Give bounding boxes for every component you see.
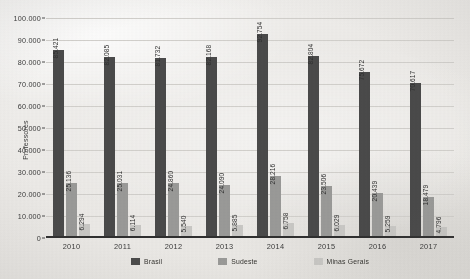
bar-value-label: 6.758 xyxy=(282,213,289,230)
y-axis-tick-label: 40.000 xyxy=(18,146,41,155)
bar-value-label: 75.672 xyxy=(358,59,365,80)
bar[interactable]: 23.506 xyxy=(321,186,332,238)
bar[interactable]: 82.085 xyxy=(104,57,115,238)
bar[interactable]: 75.672 xyxy=(359,72,370,238)
bar-slot: 24.090 xyxy=(219,18,230,238)
bar-group: 75.67220.4395.2592016 xyxy=(352,18,403,238)
bar-slot: 85.421 xyxy=(53,18,64,238)
bar-group: 82.80423.5066.0292015 xyxy=(301,18,352,238)
bar-value-label: 5.885 xyxy=(231,215,238,232)
bar-value-label: 24.860 xyxy=(167,171,174,192)
y-axis-tick-label: 30.000 xyxy=(18,168,41,177)
bar-value-label: 20.439 xyxy=(371,181,378,202)
bar-value-label: 25.031 xyxy=(116,171,123,192)
bar[interactable]: 24.860 xyxy=(168,183,179,238)
bar-slot: 6.758 xyxy=(283,18,294,238)
bar[interactable]: 70.617 xyxy=(410,83,421,238)
bar-slot: 24.860 xyxy=(168,18,179,238)
legend-item[interactable]: Brasil xyxy=(131,258,162,265)
bar[interactable]: 25.136 xyxy=(66,183,77,238)
legend-swatch-icon xyxy=(314,258,323,265)
bar-slot: 4.796 xyxy=(436,18,447,238)
legend-label: Sudeste xyxy=(231,258,257,265)
legend-swatch-icon xyxy=(131,258,140,265)
x-axis-tick-label: 2015 xyxy=(318,242,336,251)
bar-value-label: 4.796 xyxy=(435,217,442,234)
y-axis-tick-label: 50.000 xyxy=(18,124,41,133)
legend-swatch-icon xyxy=(218,258,227,265)
y-axis-tick-label: 0 xyxy=(37,234,41,243)
y-axis-tick-mark xyxy=(42,40,45,41)
bar-value-label: 25.136 xyxy=(65,170,72,191)
y-axis-tick-mark xyxy=(42,84,45,85)
bar-value-label: 92.754 xyxy=(256,22,263,43)
y-axis-tick-mark xyxy=(42,194,45,195)
y-axis-tick-mark xyxy=(42,238,45,239)
y-axis-tick-label: 80.000 xyxy=(18,58,41,67)
bar-slot: 6.029 xyxy=(334,18,345,238)
bar-slot: 5.885 xyxy=(232,18,243,238)
y-axis-tick-mark xyxy=(42,150,45,151)
legend-item[interactable]: Sudeste xyxy=(218,258,257,265)
bar[interactable]: 85.421 xyxy=(53,50,64,238)
y-axis-tick-mark xyxy=(42,216,45,217)
x-axis-tick-label: 2011 xyxy=(114,242,131,251)
bar-value-label: 85.421 xyxy=(52,38,59,59)
bar-group: 92.75428.2166.7582014 xyxy=(250,18,301,238)
bar-group: 70.61718.4794.7962017 xyxy=(403,18,454,238)
bar-slot: 82.804 xyxy=(308,18,319,238)
bar-slot: 6.114 xyxy=(130,18,141,238)
y-axis-tick-mark xyxy=(42,18,45,19)
bar-value-label: 5.540 xyxy=(180,215,187,232)
bar-value-label: 18.479 xyxy=(422,185,429,206)
bar-slot: 92.754 xyxy=(257,18,268,238)
legend-item[interactable]: Minas Gerais xyxy=(314,258,369,265)
x-axis-tick-label: 2012 xyxy=(165,242,183,251)
bar-groups: 85.42125.1366.294201082.08525.0316.11420… xyxy=(46,18,454,238)
bar-group: 82.16824.0905.8852013 xyxy=(199,18,250,238)
bar-slot: 25.136 xyxy=(66,18,77,238)
y-axis-tick-label: 100.000 xyxy=(14,14,41,23)
bar-group: 85.42125.1366.2942010 xyxy=(46,18,97,238)
legend-label: Brasil xyxy=(144,258,162,265)
bar[interactable]: 18.479 xyxy=(423,197,434,238)
x-axis-tick-label: 2016 xyxy=(369,242,387,251)
chart-legend: BrasilSudesteMinas Gerais xyxy=(46,258,454,265)
y-axis-tick-mark xyxy=(42,128,45,129)
bar-value-label: 81.732 xyxy=(154,46,161,67)
bar-value-label: 82.085 xyxy=(103,45,110,66)
bar-slot: 6.294 xyxy=(79,18,90,238)
bar-slot: 28.216 xyxy=(270,18,281,238)
y-axis-tick-label: 70.000 xyxy=(18,80,41,89)
x-axis-tick-label: 2014 xyxy=(267,242,285,251)
bar[interactable]: 92.754 xyxy=(257,34,268,238)
bar-value-label: 6.294 xyxy=(78,214,85,231)
bar[interactable]: 82.804 xyxy=(308,56,319,238)
bar-value-label: 5.259 xyxy=(384,216,391,233)
bar-value-label: 6.029 xyxy=(333,214,340,231)
bar-value-label: 24.090 xyxy=(218,173,225,194)
bar-slot: 82.085 xyxy=(104,18,115,238)
bar-group: 81.73224.8605.5402012 xyxy=(148,18,199,238)
x-axis-tick-label: 2010 xyxy=(63,242,81,251)
legend-label: Minas Gerais xyxy=(327,258,369,265)
y-axis-tick-label: 60.000 xyxy=(18,102,41,111)
bar[interactable]: 25.031 xyxy=(117,183,128,238)
y-axis-tick-mark xyxy=(42,62,45,63)
plot-area: 100.00090.00080.00070.00060.00050.00040.… xyxy=(46,18,454,238)
x-axis-line xyxy=(46,236,454,238)
bar[interactable]: 28.216 xyxy=(270,176,281,238)
y-axis-tick-mark xyxy=(42,106,45,107)
bar[interactable]: 82.168 xyxy=(206,57,217,238)
bar-slot: 25.031 xyxy=(117,18,128,238)
y-axis-tick-label: 10.000 xyxy=(18,212,41,221)
bar[interactable]: 81.732 xyxy=(155,58,166,238)
bar[interactable]: 24.090 xyxy=(219,185,230,238)
bar[interactable]: 20.439 xyxy=(372,193,383,238)
bar-group: 82.08525.0316.1142011 xyxy=(97,18,148,238)
bar-slot: 20.439 xyxy=(372,18,383,238)
bar-value-label: 70.617 xyxy=(409,70,416,91)
bar-slot: 18.479 xyxy=(423,18,434,238)
bar-slot: 23.506 xyxy=(321,18,332,238)
bar-chart: Professores 100.00090.00080.00070.00060.… xyxy=(0,0,470,279)
